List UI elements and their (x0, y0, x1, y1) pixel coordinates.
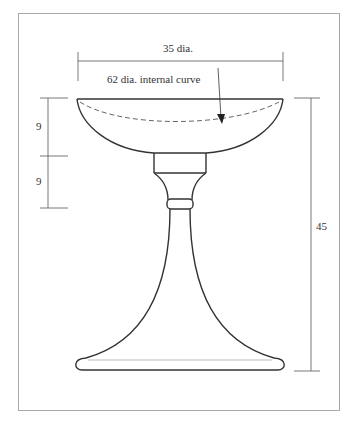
internal-curve-dashed (80, 102, 279, 122)
bowl-depth-upper-label: 9 (36, 120, 42, 132)
bowl-depth-lower-label: 9 (36, 175, 42, 187)
height-dimension (294, 98, 320, 371)
internal-curve-label: 62 dia. internal curve (107, 73, 200, 85)
arrow-icon (217, 68, 225, 124)
total-height-label: 45 (316, 220, 327, 232)
goblet-outline (76, 99, 285, 370)
goblet-drawing (0, 0, 351, 424)
rim-diameter-label: 35 dia. (163, 42, 193, 54)
bowl-depth-dimension (40, 98, 68, 208)
